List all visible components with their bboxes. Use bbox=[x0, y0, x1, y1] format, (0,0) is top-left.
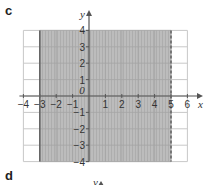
x-tick-label: 6 bbox=[185, 99, 191, 110]
y-tick-label: 2 bbox=[79, 58, 85, 69]
y-tick-label: −1 bbox=[74, 107, 86, 118]
x-tick-label: 1 bbox=[103, 99, 109, 110]
next-graph-y-axis: y bbox=[92, 176, 104, 185]
x-tick-label: 4 bbox=[152, 99, 158, 110]
x-tick-label: 0 bbox=[79, 84, 85, 96]
y-tick-label: 4 bbox=[79, 25, 85, 36]
next-y-axis-arrow-icon bbox=[98, 181, 104, 185]
y-tick-label: −2 bbox=[74, 124, 86, 135]
y-tick-label: 3 bbox=[79, 42, 85, 53]
y-tick-label: 1 bbox=[79, 75, 85, 86]
y-axis-label: y bbox=[79, 8, 85, 20]
x-tick-label: −3 bbox=[34, 99, 46, 110]
x-axis-label: x bbox=[197, 98, 203, 110]
inequality-graph: xy −4−3−2−10123456−4−3−2−11234 y bbox=[0, 0, 208, 185]
x-tick-label: 2 bbox=[119, 99, 125, 110]
x-tick-label: −4 bbox=[18, 99, 30, 110]
y-axis-arrow-icon bbox=[86, 10, 92, 16]
y-tick-label: −4 bbox=[74, 157, 86, 168]
next-y-axis-label: y bbox=[92, 176, 98, 185]
y-tick-label: −3 bbox=[74, 140, 86, 151]
x-tick-label: 3 bbox=[135, 99, 141, 110]
x-tick-label: −2 bbox=[50, 99, 62, 110]
x-tick-label: 5 bbox=[168, 99, 174, 110]
